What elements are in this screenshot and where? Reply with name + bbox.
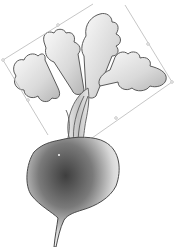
resize-handle bbox=[2, 59, 5, 62]
drawing-canvas[interactable] bbox=[0, 0, 177, 247]
radish-bulb[interactable] bbox=[27, 137, 119, 247]
resize-handle bbox=[57, 24, 60, 27]
selection-edge-bottom bbox=[92, 82, 172, 138]
resize-handle bbox=[171, 81, 174, 84]
resize-handle bbox=[27, 99, 30, 102]
highlight-dot bbox=[58, 154, 60, 156]
radish-leaves[interactable] bbox=[14, 13, 167, 101]
resize-handle bbox=[147, 43, 150, 46]
resize-handle bbox=[115, 117, 118, 120]
